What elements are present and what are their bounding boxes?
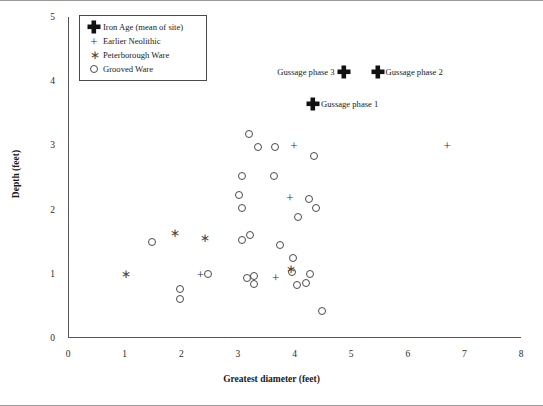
y-axis-tick-label: 1	[41, 269, 55, 279]
data-point	[148, 238, 156, 246]
data-point	[204, 270, 212, 278]
x-axis-tick-label: 6	[405, 349, 410, 359]
y-axis-tick-label: 4	[41, 76, 55, 86]
data-point	[307, 97, 320, 110]
data-point	[235, 191, 243, 199]
data-point	[288, 268, 296, 276]
x-axis-tick-label: 5	[349, 349, 354, 359]
data-point	[176, 285, 184, 293]
x-axis-label: Greatest diameter (feet)	[0, 374, 543, 384]
legend-item-label: Iron Age (mean of site)	[103, 22, 183, 32]
data-point	[312, 204, 320, 212]
point-annotation: Gussage phase 2	[386, 67, 443, 77]
point-annotation: Gussage phase 3	[277, 67, 334, 77]
data-point	[294, 213, 302, 221]
data-point	[238, 172, 246, 180]
y-axis-tick-label: 2	[41, 205, 55, 215]
data-point	[288, 140, 299, 151]
plus-icon	[85, 34, 103, 48]
asterisk-marker	[90, 51, 99, 60]
data-point	[238, 204, 246, 212]
legend: Iron Age (mean of site)Earlier Neolithic…	[79, 15, 207, 81]
data-point	[276, 241, 284, 249]
data-point	[245, 130, 253, 138]
x-axis-tick-label: 7	[462, 349, 467, 359]
legend-item: Grooved Ware	[85, 62, 200, 76]
data-point	[121, 269, 130, 278]
data-point	[200, 234, 209, 243]
data-point	[293, 281, 301, 289]
y-axis-tick-label: 3	[41, 140, 55, 150]
asterisk-icon	[85, 48, 103, 62]
legend-item-label: Earlier Neolithic	[103, 36, 161, 46]
plus-marker	[89, 36, 100, 47]
data-point	[254, 143, 262, 151]
data-point	[270, 172, 278, 180]
data-point	[246, 231, 254, 239]
data-point	[318, 307, 326, 315]
scatter-plot-figure: Depth (feet) 012345 Gussage phase 3Gussa…	[0, 0, 543, 406]
data-point	[284, 191, 295, 202]
legend-item: Earlier Neolithic	[85, 34, 200, 48]
fat-cross-icon	[85, 20, 103, 34]
x-axis-tick-label: 1	[122, 349, 127, 359]
data-point	[170, 229, 179, 238]
y-axis-tick-label: 0	[41, 333, 55, 343]
x-axis-tick-label: 3	[236, 349, 241, 359]
data-point	[302, 279, 310, 287]
fat-cross-marker	[88, 21, 101, 34]
data-point	[270, 272, 281, 283]
x-axis-tick-label: 0	[66, 349, 71, 359]
data-point	[176, 295, 184, 303]
circle-marker	[90, 65, 98, 73]
legend-item-label: Peterborough Ware	[103, 50, 169, 60]
data-point	[310, 152, 318, 160]
data-point	[371, 65, 384, 78]
data-point	[271, 143, 279, 151]
y-axis-label: Depth (feet)	[11, 134, 21, 214]
x-axis-tick-label: 8	[519, 349, 524, 359]
data-point	[337, 65, 350, 78]
data-point	[289, 254, 297, 262]
legend-item-label: Grooved Ware	[103, 64, 153, 74]
data-point	[305, 195, 313, 203]
point-annotation: Gussage phase 1	[321, 99, 378, 109]
data-point	[238, 236, 246, 244]
x-axis-tick-label: 2	[179, 349, 184, 359]
data-point	[250, 280, 258, 288]
data-point	[306, 270, 314, 278]
data-point	[442, 140, 453, 151]
legend-item: Iron Age (mean of site)	[85, 20, 200, 34]
circle-icon	[85, 62, 103, 76]
x-axis-tick-label: 4	[292, 349, 297, 359]
y-axis-tick-label: 5	[41, 12, 55, 22]
legend-item: Peterborough Ware	[85, 48, 200, 62]
